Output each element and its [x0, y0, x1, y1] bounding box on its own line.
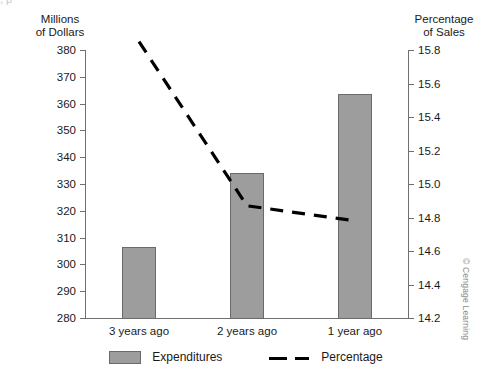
right-axis-title-line1: Percentage: [400, 13, 488, 26]
legend-dashed-line-icon: [268, 351, 310, 364]
right-axis-tick: [409, 251, 414, 252]
legend-bar-swatch-icon: [109, 351, 141, 364]
left-axis-tick-label: 380: [57, 44, 76, 56]
left-axis-tick-label: 310: [57, 232, 76, 244]
right-axis-title-line2: of Sales: [400, 26, 488, 39]
right-axis-tick-label: 15.2: [418, 145, 440, 157]
right-axis-tick-label: 15.8: [418, 44, 440, 56]
bar-line-combo-chart: , p Millions of Dollars Percentage of Sa…: [0, 0, 492, 380]
right-axis-tick-label: 14.6: [418, 245, 440, 257]
right-axis-tick: [409, 50, 414, 51]
copyright-credit: © Cengage Learning: [461, 258, 471, 340]
right-axis-tick-label: 14.2: [418, 312, 440, 324]
right-axis-tick-label: 15.0: [418, 178, 440, 190]
line-series-percentage: [85, 50, 409, 319]
percentage-dashed-polyline: [139, 42, 355, 221]
right-axis-tick: [409, 151, 414, 152]
x-axis-category-label: 3 years ago: [84, 325, 194, 338]
left-axis-tick-label: 330: [57, 178, 76, 190]
right-axis-tick: [409, 285, 414, 286]
right-axis-tick-label: 15.4: [418, 111, 440, 123]
right-axis-tick: [409, 84, 414, 85]
left-axis-title-line2: of Dollars: [17, 26, 103, 39]
legend-label-expenditures: Expenditures: [152, 351, 222, 364]
left-axis-tick-label: 370: [57, 71, 76, 83]
x-axis-category-label: 2 years ago: [192, 325, 302, 338]
right-axis-tick: [409, 184, 414, 185]
cropped-header-text-label: , p: [0, 0, 12, 4]
right-axis-tick-label: 14.4: [418, 279, 440, 291]
left-axis-tick-label: 300: [57, 258, 76, 270]
chart-legend: Expenditures Percentage: [0, 346, 492, 368]
right-axis-tick: [409, 117, 414, 118]
cropped-header-text: , p: [0, 0, 492, 9]
left-axis-tick-label: 350: [57, 124, 76, 136]
left-axis-tick-label: 320: [57, 205, 76, 217]
right-axis-tick: [409, 318, 414, 319]
left-axis-title: Millions of Dollars: [17, 13, 103, 39]
legend-item-expenditures: Expenditures: [109, 351, 222, 364]
right-axis-title: Percentage of Sales: [400, 13, 488, 39]
left-axis-title-line1: Millions: [17, 13, 103, 26]
legend-item-percentage: Percentage: [268, 351, 382, 364]
x-axis-category-label: 1 year ago: [300, 325, 410, 338]
left-axis-tick-label: 360: [57, 98, 76, 110]
left-axis-tick-label: 340: [57, 151, 76, 163]
right-axis-tick: [409, 218, 414, 219]
legend-label-percentage: Percentage: [321, 351, 382, 364]
right-axis-tick-label: 14.8: [418, 212, 440, 224]
left-axis-tick-label: 290: [57, 285, 76, 297]
right-axis-tick-label: 15.6: [418, 78, 440, 90]
left-axis-tick-label: 280: [57, 312, 76, 324]
plot-area: 380370360350340330320310300290280 15.815…: [85, 50, 409, 318]
legend-dashed-line-svg: [268, 352, 310, 365]
